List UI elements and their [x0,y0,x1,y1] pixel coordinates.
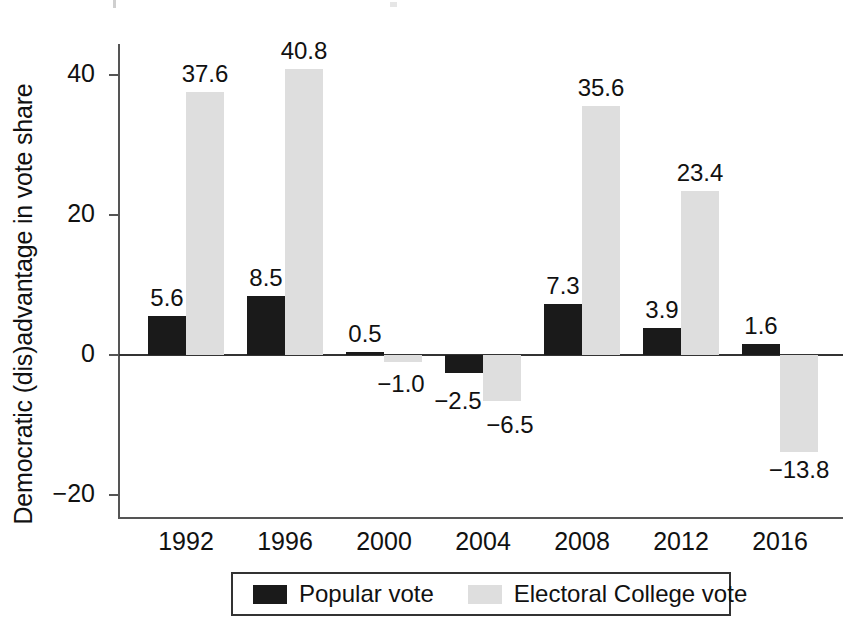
bar-1992-electoral-college-vote [186,92,224,355]
bar-value-label: 23.4 [655,159,745,187]
scan-artifact [113,0,116,8]
scan-artifact [390,2,397,7]
legend-label-popular-vote: Popular vote [299,580,434,608]
x-tick-label-1992: 1992 [136,527,236,556]
electoral-college-vote-swatch [468,585,502,604]
bar-2008-popular-vote [544,304,582,355]
legend-label-electoral-college-vote: Electoral College vote [514,580,747,608]
legend-item-popular-vote: Popular vote [253,580,434,608]
bar-value-label: 40.8 [259,37,349,65]
bar-1996-electoral-college-vote [285,69,323,355]
y-tick-label: 20 [33,199,95,228]
y-tick-mark [109,214,119,216]
x-tick-label-2004: 2004 [433,527,533,556]
legend-item-electoral-college-vote: Electoral College vote [468,580,747,608]
popular-vote-swatch [253,585,287,604]
x-tick-label-2008: 2008 [532,527,632,556]
x-tick-label-1996: 1996 [235,527,335,556]
bar-1996-popular-vote [247,296,285,356]
bar-value-label: −6.5 [465,411,555,439]
bar-2004-popular-vote [445,355,483,373]
bar-2016-electoral-college-vote [780,355,818,452]
y-tick-mark [109,494,119,496]
x-tick-label-2016: 2016 [730,527,830,556]
y-tick-label: 40 [33,59,95,88]
y-tick-mark [109,354,119,356]
bar-value-label: 0.5 [320,320,410,348]
x-tick-label-2000: 2000 [334,527,434,556]
y-axis-line [118,44,120,519]
bar-2012-popular-vote [643,328,681,355]
chart-figure: Democratic (dis)advantage in vote share … [0,0,867,641]
bar-2016-popular-vote [742,344,780,355]
bar-value-label: 1.6 [716,312,806,340]
x-tick-label-2012: 2012 [631,527,731,556]
bar-value-label: −13.8 [754,456,844,484]
bar-2000-electoral-college-vote [384,355,422,362]
bar-2012-electoral-college-vote [681,191,719,355]
bar-2000-popular-vote [346,352,384,356]
bar-2008-electoral-college-vote [582,106,620,355]
bar-value-label: 37.6 [160,60,250,88]
bar-value-label: −1.0 [356,370,446,398]
bar-value-label: 35.6 [556,74,646,102]
y-tick-label: −20 [33,479,95,508]
bar-1992-popular-vote [148,316,186,355]
x-axis-line [118,517,843,519]
chart-legend: Popular vote Electoral College vote [231,572,731,616]
bar-2004-electoral-college-vote [483,355,521,401]
y-tick-label: 0 [33,339,95,368]
y-tick-mark [109,74,119,76]
